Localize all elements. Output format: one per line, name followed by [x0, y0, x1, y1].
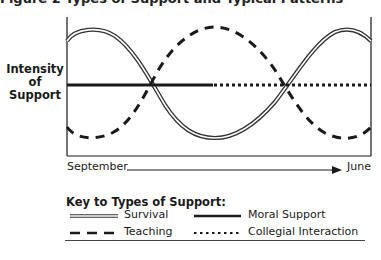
key-label-collegial-interaction: Collegial Interaction	[248, 225, 358, 238]
x-axis-start-label: September	[67, 160, 128, 173]
key-label-moral-support: Moral Support	[248, 208, 326, 221]
key-title: Key to Types of Support:	[66, 195, 226, 209]
series-teaching	[67, 27, 371, 138]
arrowhead-icon	[332, 166, 342, 174]
bottom-divider	[65, 240, 365, 241]
key-label-survival: Survival	[124, 208, 168, 221]
x-axis-end-label: June	[347, 160, 371, 173]
chart-plot-area	[0, 0, 381, 260]
key-label-teaching: Teaching	[124, 225, 172, 238]
